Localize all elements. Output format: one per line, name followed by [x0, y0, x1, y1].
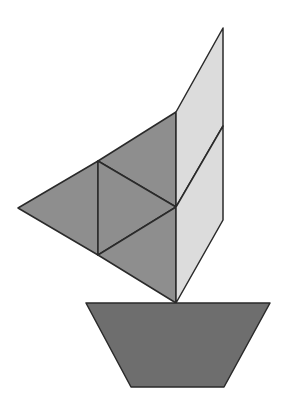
sailboat-tangram-figure [0, 0, 289, 405]
